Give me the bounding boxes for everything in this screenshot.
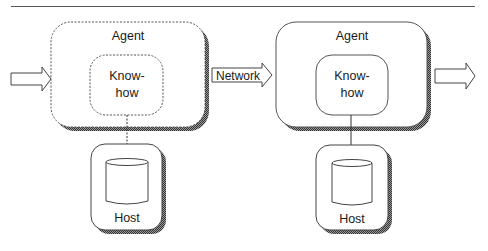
- host-box-left: Host: [91, 144, 166, 234]
- knowhow-label-right-line2: how: [341, 86, 365, 100]
- input-arrow: [11, 67, 51, 91]
- agent-box-left: Agent Know- how: [51, 22, 209, 131]
- knowhow-box-right: Know- how: [316, 55, 388, 115]
- knowhow-label-left-line1: Know-: [109, 69, 144, 83]
- host-box-right: Host: [316, 145, 392, 234]
- output-arrow: [435, 63, 475, 89]
- host-label-left: Host: [114, 211, 140, 225]
- database-cylinder-icon-left: [106, 159, 148, 205]
- knowhow-label-left-line2: how: [116, 86, 140, 100]
- agent-label-left: Agent: [112, 29, 145, 43]
- knowhow-box-left: Know- how: [90, 55, 163, 115]
- knowhow-label-right-line1: Know-: [334, 69, 369, 83]
- agent-network-diagram: Agent Know- how Host Network Agent Know-…: [0, 0, 488, 251]
- agent-box-right: Agent Know- how: [276, 22, 431, 131]
- network-arrow: Network: [212, 63, 272, 87]
- network-label: Network: [216, 69, 261, 83]
- database-cylinder-icon-right: [332, 160, 372, 206]
- host-label-right: Host: [339, 212, 365, 226]
- agent-label-right: Agent: [336, 29, 369, 43]
